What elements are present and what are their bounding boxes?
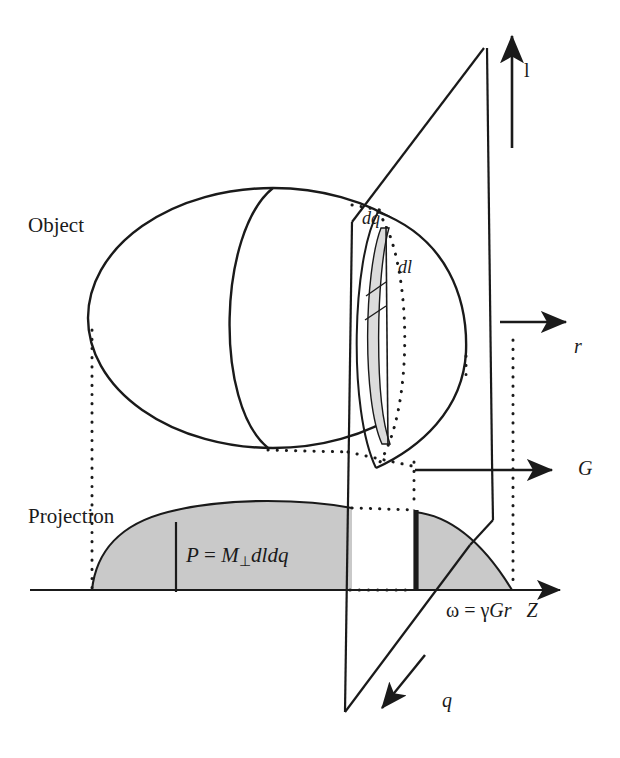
- axis-label-G: G: [578, 458, 592, 478]
- gamma-symbol: γ: [480, 599, 489, 621]
- axis-label-Z: Z: [527, 599, 538, 621]
- axis-label-l: l: [524, 60, 530, 80]
- frequency-equals: =: [464, 599, 475, 621]
- diagram-canvas: [0, 0, 620, 758]
- formula-equals: =: [204, 543, 216, 567]
- formula-M: M: [221, 543, 239, 567]
- axis-label-r: r: [574, 336, 582, 356]
- formula-perp-subscript: ⊥: [239, 553, 251, 569]
- omega-symbol: ω: [446, 599, 459, 621]
- axis-label-q: q: [442, 690, 452, 710]
- frequency-Gr: Gr: [489, 599, 511, 621]
- projection-right-lobe: [415, 510, 512, 591]
- frequency-relation: ω = γGr Z: [446, 600, 538, 620]
- dl-label: dl: [398, 258, 412, 276]
- mri-projection-figure: Object Projection dq dl l r G q P = M⊥dl…: [0, 0, 620, 758]
- formula-P: P: [186, 543, 199, 567]
- projection-amplitude-formula: P = M⊥dldq: [186, 545, 288, 569]
- projection-label: Projection: [28, 506, 114, 527]
- dq-label: dq: [362, 209, 380, 227]
- formula-dldq: dldq: [251, 543, 288, 567]
- vector-arrow-q: [382, 655, 425, 708]
- object-label: Object: [28, 215, 84, 236]
